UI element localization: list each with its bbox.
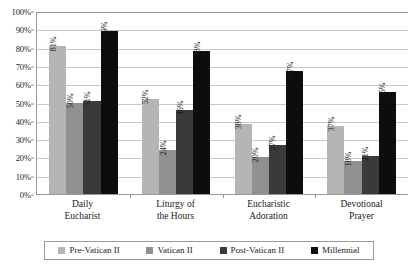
bar-slot: 18%	[344, 12, 361, 194]
bar-value-label: 20%	[252, 148, 260, 163]
bar[interactable]: 37%	[327, 126, 344, 194]
bar-groups: 81%50%51%89%52%24%46%78%38%20%27%67%37%1…	[37, 12, 408, 194]
category-label-line: Prayer	[315, 211, 408, 223]
bar-slot: 89%	[101, 12, 118, 194]
y-axis-tick-label: 10%	[16, 172, 31, 181]
legend-label: Post-Vatican II	[231, 246, 285, 255]
legend-label: Millennial	[322, 246, 360, 255]
category-label-line: Daily	[36, 199, 129, 211]
chart-legend: Pre-Vatican IIVatican IIPost-Vatican IIM…	[44, 241, 374, 260]
category-label-line: Eucharist	[36, 211, 129, 223]
bar-value-label: 56%	[379, 82, 387, 97]
y-axis-tick-mark	[31, 66, 34, 67]
bar-group-bars: 81%50%51%89%	[49, 12, 118, 194]
plot-wrapper: 100%90%80%70%60%50%40%30%20%10%0% 81%50%…	[0, 0, 418, 200]
bar[interactable]: 20%	[252, 157, 269, 194]
category-label-line: Devotional	[315, 199, 408, 211]
legend-swatch-icon	[146, 247, 153, 254]
category-label-line: the Hours	[129, 211, 222, 223]
category-tick-mark	[315, 194, 316, 198]
bar-slot: 81%	[49, 12, 66, 194]
bar-value-label: 50%	[67, 93, 75, 108]
y-axis-tick-label: 80%	[16, 44, 31, 53]
category-axis: DailyEucharistLiturgy ofthe HoursEuchari…	[36, 199, 408, 222]
bar[interactable]: 78%	[193, 51, 210, 194]
bar-slot: 21%	[362, 12, 379, 194]
bar-slot: 20%	[252, 12, 269, 194]
y-axis-tick-mark	[31, 48, 34, 49]
category-label: DevotionalPrayer	[315, 199, 408, 222]
bar[interactable]: 52%	[142, 99, 159, 194]
y-axis-tick-mark	[31, 12, 34, 13]
bar[interactable]: 81%	[49, 46, 66, 194]
bar[interactable]: 51%	[83, 101, 100, 194]
bar[interactable]: 38%	[235, 124, 252, 194]
y-axis-tick-label: 0%	[20, 191, 31, 200]
y-axis-tick-label: 30%	[16, 136, 31, 145]
legend-label: Vatican II	[157, 246, 192, 255]
y-axis-tick-mark	[31, 85, 34, 86]
category-label-line: Liturgy of	[129, 199, 222, 211]
bar[interactable]: 50%	[66, 103, 83, 195]
bar-slot: 50%	[66, 12, 83, 194]
bar-value-label: 38%	[235, 115, 243, 130]
bar[interactable]: 67%	[286, 71, 303, 194]
bar[interactable]: 27%	[269, 145, 286, 194]
bar-group: 81%50%51%89%	[37, 12, 130, 194]
y-axis-tick-label: 100%	[12, 8, 31, 17]
bar[interactable]: 89%	[101, 31, 118, 194]
bar-value-label: 51%	[84, 91, 92, 106]
bar-slot: 38%	[235, 12, 252, 194]
bar-slot: 46%	[176, 12, 193, 194]
bar-value-label: 18%	[345, 152, 353, 167]
y-axis-tick-mark	[31, 176, 34, 177]
bar-group: 37%18%21%56%	[315, 12, 408, 194]
bar-group-bars: 38%20%27%67%	[235, 12, 304, 194]
legend-item[interactable]: Millennial	[311, 246, 360, 255]
bar-group: 52%24%46%78%	[130, 12, 223, 194]
bar-slot: 56%	[379, 12, 396, 194]
category-label-line: Adoration	[222, 211, 315, 223]
bar-slot: 51%	[83, 12, 100, 194]
category-tick-mark	[223, 194, 224, 198]
y-axis-tick-label: 90%	[16, 26, 31, 35]
bar[interactable]: 18%	[344, 161, 361, 194]
legend-label: Pre-Vatican II	[69, 246, 119, 255]
y-axis: 100%90%80%70%60%50%40%30%20%10%0%	[0, 12, 34, 195]
bar[interactable]: 46%	[176, 110, 193, 194]
bar-group: 38%20%27%67%	[223, 12, 316, 194]
bar-value-label: 78%	[194, 42, 202, 57]
legend-swatch-icon	[58, 247, 65, 254]
bar-slot: 67%	[286, 12, 303, 194]
bar[interactable]: 24%	[159, 150, 176, 194]
plot-area: 81%50%51%89%52%24%46%78%38%20%27%67%37%1…	[36, 12, 408, 195]
y-axis-tick-mark	[31, 103, 34, 104]
bar[interactable]: 21%	[362, 156, 379, 194]
legend-item[interactable]: Vatican II	[146, 246, 192, 255]
legend-swatch-icon	[220, 247, 227, 254]
legend-swatch-icon	[311, 247, 318, 254]
category-label-line: Eucharistic	[222, 199, 315, 211]
y-axis-tick-label: 70%	[16, 63, 31, 72]
y-axis-tick-mark	[31, 195, 34, 196]
bar-value-label: 27%	[269, 135, 277, 150]
bar-value-label: 46%	[177, 100, 185, 115]
bar[interactable]: 56%	[379, 92, 396, 194]
bar-slot: 24%	[159, 12, 176, 194]
category-tick-mark	[130, 194, 131, 198]
bar-value-label: 21%	[362, 146, 370, 161]
bar-value-label: 52%	[142, 90, 150, 105]
legend-item[interactable]: Post-Vatican II	[220, 246, 285, 255]
legend-item[interactable]: Pre-Vatican II	[58, 246, 119, 255]
bar-slot: 27%	[269, 12, 286, 194]
y-axis-tick-mark	[31, 158, 34, 159]
bar-value-label: 37%	[328, 117, 336, 132]
bar-chart: 100%90%80%70%60%50%40%30%20%10%0% 81%50%…	[0, 0, 418, 267]
y-axis-tick-mark	[31, 121, 34, 122]
bar-group-bars: 37%18%21%56%	[327, 12, 396, 194]
bar-slot: 52%	[142, 12, 159, 194]
y-axis-tick-mark	[31, 140, 34, 141]
y-axis-tick-label: 40%	[16, 118, 31, 127]
bar-group-bars: 52%24%46%78%	[142, 12, 211, 194]
bar-value-label: 89%	[101, 22, 109, 37]
